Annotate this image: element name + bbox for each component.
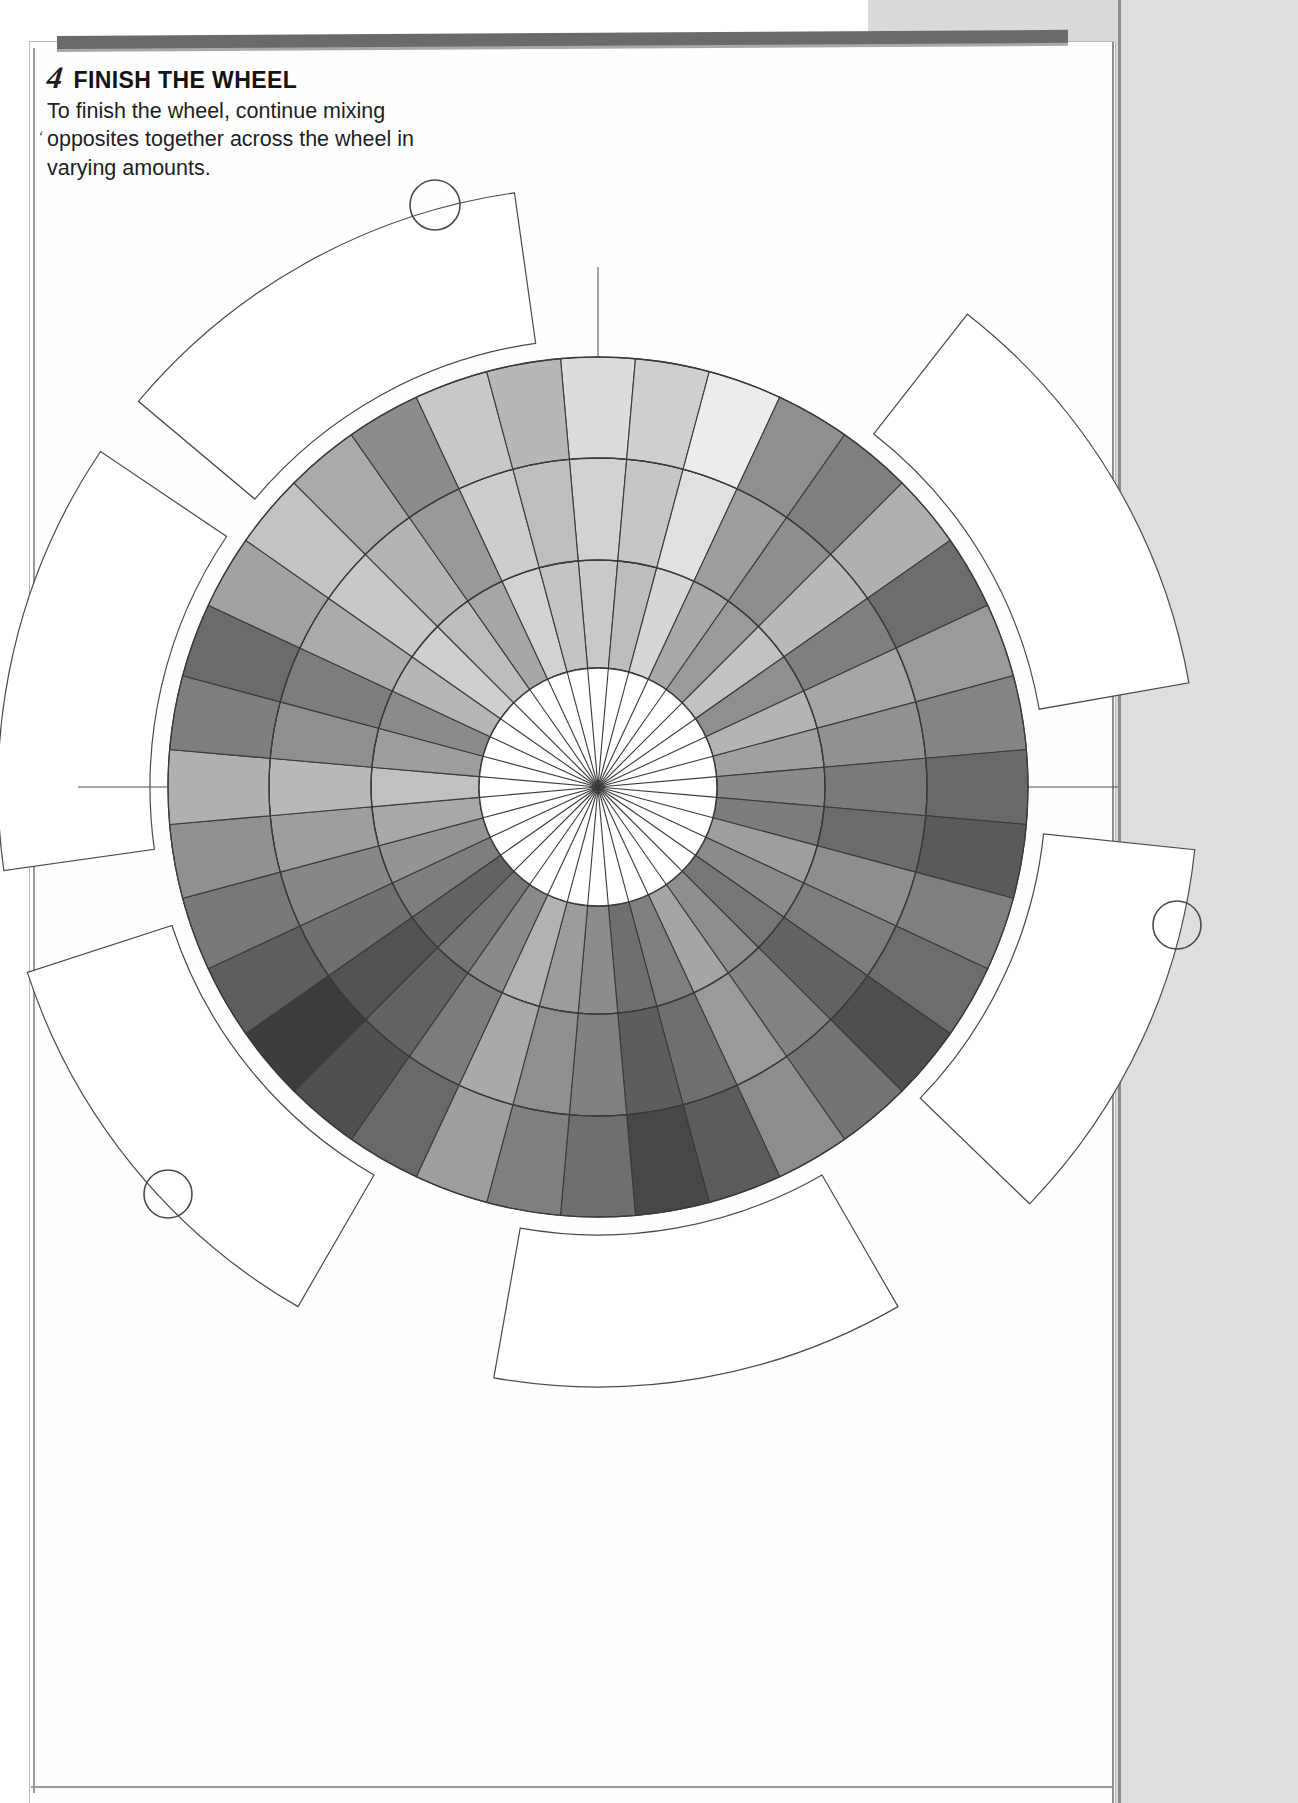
scanned-page-canvas: 4 FINISH THE WHEEL To finish the wheel, …: [0, 0, 1298, 1803]
page-title: FINISH THE WHEEL: [74, 69, 298, 92]
page-left-margin-rule: [33, 48, 35, 1793]
step-heading: 4 FINISH THE WHEEL: [47, 62, 567, 93]
page-bottom-edge: [31, 1786, 1114, 1788]
book-page: [30, 42, 1115, 1803]
step-number: 4: [45, 62, 63, 93]
scanner-backdrop-outer: [1120, 0, 1298, 1803]
step-instruction-block: 4 FINISH THE WHEEL To finish the wheel, …: [47, 62, 567, 182]
backdrop-seam: [1118, 0, 1121, 1803]
page-right-edge: [1112, 42, 1114, 1803]
step-body-text: To finish the wheel, continue mixing opp…: [47, 97, 437, 182]
